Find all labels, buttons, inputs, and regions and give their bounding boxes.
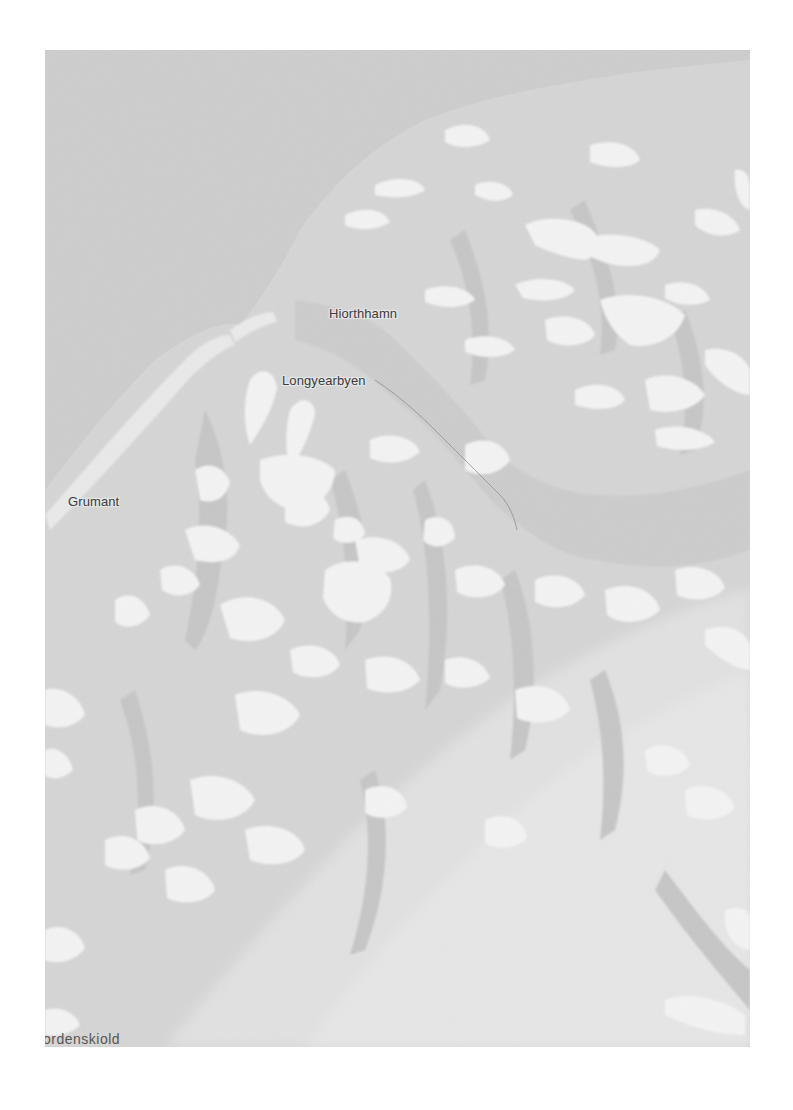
map-canvas[interactable]: Hiorthhamn Longyearbyen Grumant ordenski… xyxy=(45,50,750,1047)
page: Hiorthhamn Longyearbyen Grumant ordenski… xyxy=(0,0,793,1110)
place-label-longyearbyen[interactable]: Longyearbyen xyxy=(282,373,366,388)
region-label-nordenskiold: ordenskiold xyxy=(45,1031,120,1047)
place-label-hiorthhamn[interactable]: Hiorthhamn xyxy=(329,306,397,321)
terrain-layer xyxy=(45,50,750,1047)
place-label-grumant[interactable]: Grumant xyxy=(68,494,119,509)
